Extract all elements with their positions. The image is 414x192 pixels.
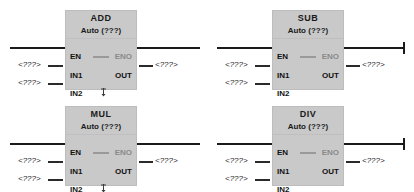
pin-label-in1[interactable]: IN1 <box>277 71 289 81</box>
operand-out[interactable]: <???> <box>362 60 385 70</box>
operand-out[interactable]: <???> <box>155 156 178 166</box>
en-eno-link <box>300 152 316 154</box>
power-rail-out <box>137 47 200 49</box>
pin-label-in1[interactable]: IN1 <box>277 167 289 177</box>
header-divider <box>272 38 344 39</box>
pin-label-out[interactable]: OUT <box>115 71 132 81</box>
header-divider <box>272 134 344 135</box>
power-rail-out <box>344 47 404 49</box>
wire-stub-out <box>139 65 153 67</box>
pin-label-in1[interactable]: IN1 <box>70 167 82 177</box>
wire-stub-out <box>139 161 153 163</box>
wire-stub-in1 <box>48 161 63 163</box>
en-eno-link <box>93 56 109 58</box>
operand-in2[interactable]: <???> <box>225 78 248 88</box>
fbd-canvas: <???> <???> <???> ADD Auto (???) EN IN1 … <box>0 0 414 192</box>
block-mode: Auto (???) <box>272 25 344 36</box>
block-mode: Auto (???) <box>65 121 137 132</box>
function-block-sub[interactable]: SUB Auto (???) EN IN1 IN2 ENO OUT <box>272 10 344 90</box>
operand-in2[interactable]: <???> <box>18 78 41 88</box>
function-block-add[interactable]: ADD Auto (???) EN IN1 IN2 ENO OUT <box>65 10 137 90</box>
function-block-div[interactable]: DIV Auto (???) EN IN1 IN2 ENO OUT <box>272 106 344 186</box>
pin-label-eno[interactable]: ENO <box>322 52 339 62</box>
wire-stub-in2 <box>255 83 270 85</box>
block-mode: Auto (???) <box>272 121 344 132</box>
fbd-block-cell-mul[interactable]: <???> <???> <???> MUL Auto (???) EN IN1 … <box>0 96 207 192</box>
power-rail-out <box>344 143 404 145</box>
wire-stub-in2 <box>255 179 270 181</box>
expand-pin-icon[interactable] <box>100 184 107 192</box>
power-rail-out <box>137 143 200 145</box>
operand-out[interactable]: <???> <box>155 60 178 70</box>
block-name: SUB <box>272 10 344 25</box>
power-rail-in <box>10 47 65 49</box>
fbd-block-cell-add[interactable]: <???> <???> <???> ADD Auto (???) EN IN1 … <box>0 0 207 96</box>
wire-stub-out <box>346 161 360 163</box>
eno-terminator <box>403 138 405 150</box>
fbd-block-cell-sub[interactable]: <???> <???> <???> SUB Auto (???) EN IN1 … <box>207 0 414 96</box>
pin-label-in1[interactable]: IN1 <box>70 71 82 81</box>
pin-label-en[interactable]: EN <box>277 52 288 62</box>
power-rail-in <box>10 143 65 145</box>
function-block-mul[interactable]: MUL Auto (???) EN IN1 IN2 ENO OUT <box>65 106 137 186</box>
block-name: DIV <box>272 106 344 121</box>
operand-in2[interactable]: <???> <box>18 174 41 184</box>
power-rail-in <box>217 143 272 145</box>
fbd-block-cell-div[interactable]: <???> <???> <???> DIV Auto (???) EN IN1 … <box>207 96 414 192</box>
pin-label-out[interactable]: OUT <box>322 167 339 177</box>
pin-label-eno[interactable]: ENO <box>115 148 132 158</box>
en-eno-link <box>300 56 316 58</box>
block-header: MUL Auto (???) <box>65 106 137 134</box>
operand-in1[interactable]: <???> <box>225 156 248 166</box>
pin-label-out[interactable]: OUT <box>115 167 132 177</box>
wire-stub-in1 <box>255 161 270 163</box>
operand-out[interactable]: <???> <box>362 156 385 166</box>
power-rail-in <box>217 47 272 49</box>
operand-in1[interactable]: <???> <box>18 156 41 166</box>
header-divider <box>65 134 137 135</box>
pin-label-eno[interactable]: ENO <box>322 148 339 158</box>
pin-label-out[interactable]: OUT <box>322 71 339 81</box>
eno-terminator <box>403 42 405 54</box>
block-header: SUB Auto (???) <box>272 10 344 38</box>
wire-stub-out <box>346 65 360 67</box>
operand-in2[interactable]: <???> <box>225 174 248 184</box>
pin-label-eno[interactable]: ENO <box>115 52 132 62</box>
block-name: MUL <box>65 106 137 121</box>
pin-label-in2[interactable]: IN2 <box>70 185 82 192</box>
en-eno-link <box>93 152 109 154</box>
block-mode: Auto (???) <box>65 25 137 36</box>
wire-stub-in1 <box>48 65 63 67</box>
operand-in1[interactable]: <???> <box>18 60 41 70</box>
pin-label-in2[interactable]: IN2 <box>277 185 289 192</box>
operand-in1[interactable]: <???> <box>225 60 248 70</box>
wire-stub-in1 <box>255 65 270 67</box>
block-header: DIV Auto (???) <box>272 106 344 134</box>
block-name: ADD <box>65 10 137 25</box>
pin-label-en[interactable]: EN <box>277 148 288 158</box>
block-header: ADD Auto (???) <box>65 10 137 38</box>
wire-stub-in2 <box>48 179 63 181</box>
header-divider <box>65 38 137 39</box>
pin-label-en[interactable]: EN <box>70 52 81 62</box>
wire-stub-in2 <box>48 83 63 85</box>
pin-label-en[interactable]: EN <box>70 148 81 158</box>
